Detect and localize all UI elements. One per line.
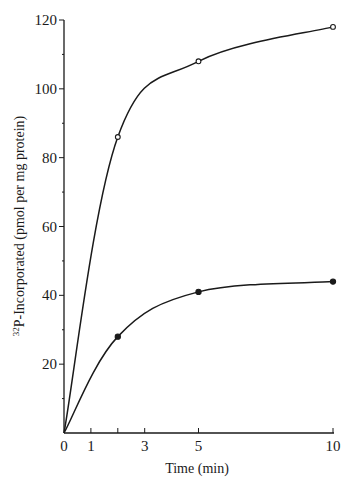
y-axis-title-main: P-Incorporated (pmol per mg protein) bbox=[12, 115, 28, 327]
x-tick-label: 1 bbox=[87, 438, 95, 454]
axes: 20406080100120013510 bbox=[35, 12, 341, 454]
y-axis-title: 32P-Incorporated (pmol per mg protein) bbox=[11, 115, 28, 336]
open-circle-marker bbox=[196, 59, 201, 64]
data-curves bbox=[64, 27, 333, 433]
x-tick-label: 5 bbox=[195, 438, 203, 454]
open-circle-curve bbox=[64, 27, 333, 433]
filled-circle-marker bbox=[330, 279, 335, 284]
filled-circle-curve bbox=[64, 282, 333, 433]
y-tick-label: 40 bbox=[42, 287, 57, 303]
open-circle-marker bbox=[331, 24, 336, 29]
x-axis-title: Time (min) bbox=[165, 461, 229, 477]
y-tick-label: 20 bbox=[42, 356, 57, 372]
x-tick-label: 3 bbox=[141, 438, 149, 454]
y-tick-label: 80 bbox=[42, 150, 57, 166]
filled-circle-marker bbox=[196, 289, 201, 294]
y-axis-superscript: 32 bbox=[11, 327, 21, 336]
y-tick-label: 120 bbox=[35, 12, 58, 28]
filled-circle-marker bbox=[115, 334, 120, 339]
chart: 20406080100120013510 Time (min) 32P-Inco… bbox=[0, 0, 352, 490]
x-tick-label: 10 bbox=[326, 438, 341, 454]
data-markers bbox=[115, 24, 335, 339]
open-circle-marker bbox=[115, 135, 120, 140]
x-tick-label: 0 bbox=[60, 438, 68, 454]
y-tick-label: 60 bbox=[42, 219, 57, 235]
y-tick-label: 100 bbox=[35, 81, 58, 97]
